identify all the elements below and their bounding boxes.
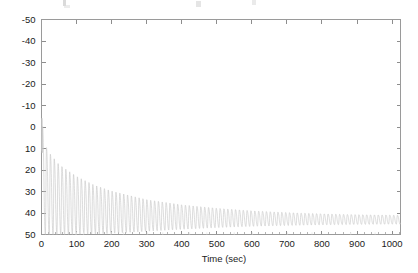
y-axis-tick-label-group: 50403020100-10-20-30-40-50 — [22, 14, 36, 240]
data-series-group — [42, 118, 401, 234]
x-axis-tick-label: 800 — [314, 238, 330, 249]
y-axis-tick-label: -20 — [22, 78, 36, 89]
y-axis-tick-label: -10 — [22, 100, 36, 111]
scan-speck — [375, 232, 376, 234]
scan-speck — [147, 232, 149, 234]
x-axis-tick-label: 600 — [244, 238, 260, 249]
x-axis-tick-label: 900 — [349, 238, 365, 249]
scan-speck — [83, 232, 84, 234]
y-axis-tick-label: -50 — [22, 14, 36, 25]
x-axis-tick-label: 400 — [174, 238, 190, 249]
y-axis-tick-label: 10 — [25, 143, 36, 154]
figure-canvas: 50403020100-10-20-30-40-50 0100200300400… — [0, 0, 418, 273]
x-axis-tick-label: 700 — [279, 238, 295, 249]
y-axis-tick-label: 20 — [25, 164, 36, 175]
x-axis-tick-label: 1000 — [382, 238, 403, 249]
data-series-line — [42, 118, 401, 234]
scan-speck — [287, 232, 288, 234]
x-axis-tick-label: 300 — [139, 238, 155, 249]
x-axis-tick-label: 200 — [104, 238, 120, 249]
scan-speck — [75, 232, 77, 234]
x-axis-title: Time (sec) — [202, 253, 247, 264]
y-axis-tick-label: 30 — [25, 186, 36, 197]
x-axis-tick-label: 0 — [39, 238, 44, 249]
scan-speck — [189, 232, 190, 234]
y-axis-tick-label: -40 — [22, 35, 36, 46]
scan-speck — [350, 232, 351, 234]
scan-speck — [311, 232, 312, 234]
scan-speck — [110, 232, 111, 234]
x-axis-tick-label-group: 01002003004005006007008009001000 — [39, 238, 403, 249]
tick-mark-group — [42, 20, 401, 235]
y-axis-tick-label: 40 — [25, 207, 36, 218]
scan-speck — [252, 232, 253, 234]
x-axis-tick-label: 500 — [209, 238, 225, 249]
scan-speck — [234, 232, 235, 234]
chart-plot: 50403020100-10-20-30-40-50 0100200300400… — [0, 0, 418, 273]
y-axis-tick-label: 50 — [25, 229, 36, 240]
plot-frame — [42, 20, 401, 235]
scan-speck — [123, 232, 124, 234]
y-axis-tick-label: -30 — [22, 57, 36, 68]
y-axis-tick-label: 0 — [30, 121, 35, 132]
x-axis-tick-label: 100 — [69, 238, 85, 249]
scan-speck — [162, 232, 163, 234]
initial-peak-spike — [42, 118, 43, 152]
scan-speck — [206, 232, 207, 234]
